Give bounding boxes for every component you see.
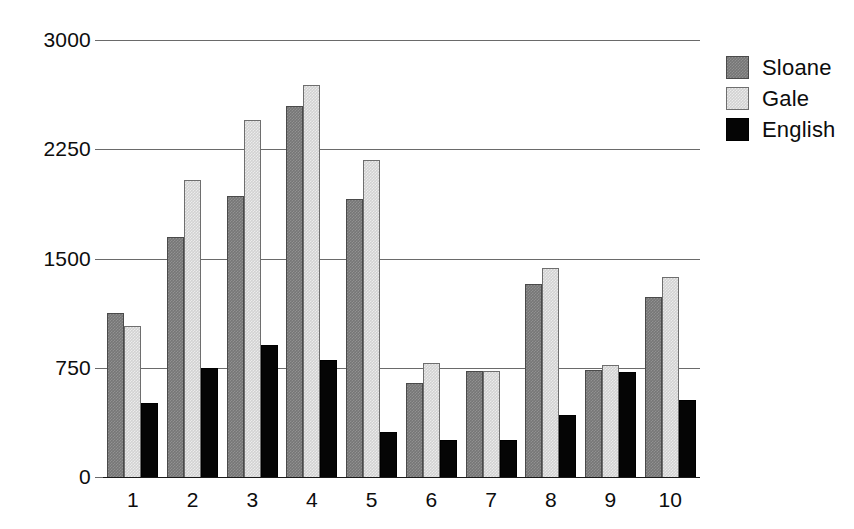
bar-english-4[interactable]: [320, 360, 337, 477]
bar-gale-7[interactable]: [483, 371, 500, 477]
bar-group: 8: [521, 40, 581, 477]
bar-sloane-5[interactable]: [346, 199, 363, 477]
xtick-label-2: 2: [187, 488, 199, 512]
bar-english-1[interactable]: [141, 403, 158, 477]
ytick-mark-3000: [95, 40, 103, 41]
legend-item-sloane: Sloane: [726, 52, 846, 83]
ytick-mark-1500: [95, 259, 103, 260]
xtick-label-5: 5: [366, 488, 378, 512]
bar-gale-10[interactable]: [662, 277, 679, 477]
bar-gale-3[interactable]: [244, 120, 261, 477]
legend-item-gale: Gale: [726, 83, 846, 114]
bar-group: 2: [163, 40, 223, 477]
legend-swatch-sloane: [726, 56, 749, 79]
bar-english-2[interactable]: [201, 368, 218, 477]
bar-english-7[interactable]: [500, 440, 517, 477]
chart-title-clipped: [0, 0, 854, 9]
legend-swatch-gale: [726, 87, 749, 110]
xtick-label-1: 1: [127, 488, 139, 512]
xtick-label-4: 4: [306, 488, 318, 512]
bar-group: 3: [222, 40, 282, 477]
bar-english-5[interactable]: [380, 432, 397, 477]
bar-group: 4: [282, 40, 342, 477]
ytick-label-3000: 3000: [43, 28, 91, 52]
ytick-label-1500: 1500: [43, 247, 91, 271]
bar-chart: 3000 2250 1500 750 0 12345678910 Sloane …: [0, 0, 854, 529]
ytick-mark-750: [95, 368, 103, 369]
xtick-label-8: 8: [545, 488, 557, 512]
xtick-label-9: 9: [605, 488, 617, 512]
bar-sloane-10[interactable]: [645, 297, 662, 477]
bar-sloane-2[interactable]: [167, 237, 184, 477]
bar-english-9[interactable]: [619, 372, 636, 477]
legend-label-sloane: Sloane: [762, 55, 832, 81]
bar-english-6[interactable]: [440, 440, 457, 477]
bar-group: 1: [103, 40, 163, 477]
bar-gale-2[interactable]: [184, 180, 201, 477]
bar-gale-5[interactable]: [363, 160, 380, 477]
bar-sloane-9[interactable]: [585, 370, 602, 477]
bar-english-3[interactable]: [261, 345, 278, 477]
bar-gale-1[interactable]: [124, 326, 141, 477]
xtick-label-6: 6: [426, 488, 438, 512]
legend-label-gale: Gale: [762, 86, 809, 112]
bar-gale-4[interactable]: [303, 85, 320, 477]
bar-group: 7: [461, 40, 521, 477]
bar-english-10[interactable]: [679, 400, 696, 477]
bar-english-8[interactable]: [559, 415, 576, 477]
bar-sloane-1[interactable]: [107, 313, 124, 477]
ytick-label-750: 750: [55, 356, 91, 380]
bar-gale-6[interactable]: [423, 363, 440, 477]
bar-group: 9: [581, 40, 641, 477]
bar-gale-9[interactable]: [602, 365, 619, 477]
bar-sloane-4[interactable]: [286, 106, 303, 477]
ytick-mark-2250: [95, 149, 103, 150]
ytick-label-2250: 2250: [43, 137, 91, 161]
bar-sloane-3[interactable]: [227, 196, 244, 477]
xtick-label-7: 7: [485, 488, 497, 512]
gridline-0-baseline: 0: [103, 477, 700, 478]
ytick-mark-0: [95, 477, 103, 478]
xtick-label-10: 10: [658, 488, 681, 512]
legend-item-english: English: [726, 114, 846, 145]
bar-group: 5: [342, 40, 402, 477]
bar-groups: 12345678910: [103, 40, 700, 477]
plot-area: 3000 2250 1500 750 0 12345678910: [103, 40, 700, 477]
ytick-label-0: 0: [79, 465, 91, 489]
bar-gale-8[interactable]: [542, 268, 559, 477]
bar-group: 6: [402, 40, 462, 477]
legend-swatch-english: [726, 118, 749, 141]
bar-sloane-7[interactable]: [466, 371, 483, 477]
bar-sloane-8[interactable]: [525, 284, 542, 477]
bar-sloane-6[interactable]: [406, 383, 423, 477]
legend-label-english: English: [762, 117, 836, 143]
chart-legend: Sloane Gale English: [726, 52, 846, 145]
bar-group: 10: [640, 40, 700, 477]
xtick-label-3: 3: [246, 488, 258, 512]
